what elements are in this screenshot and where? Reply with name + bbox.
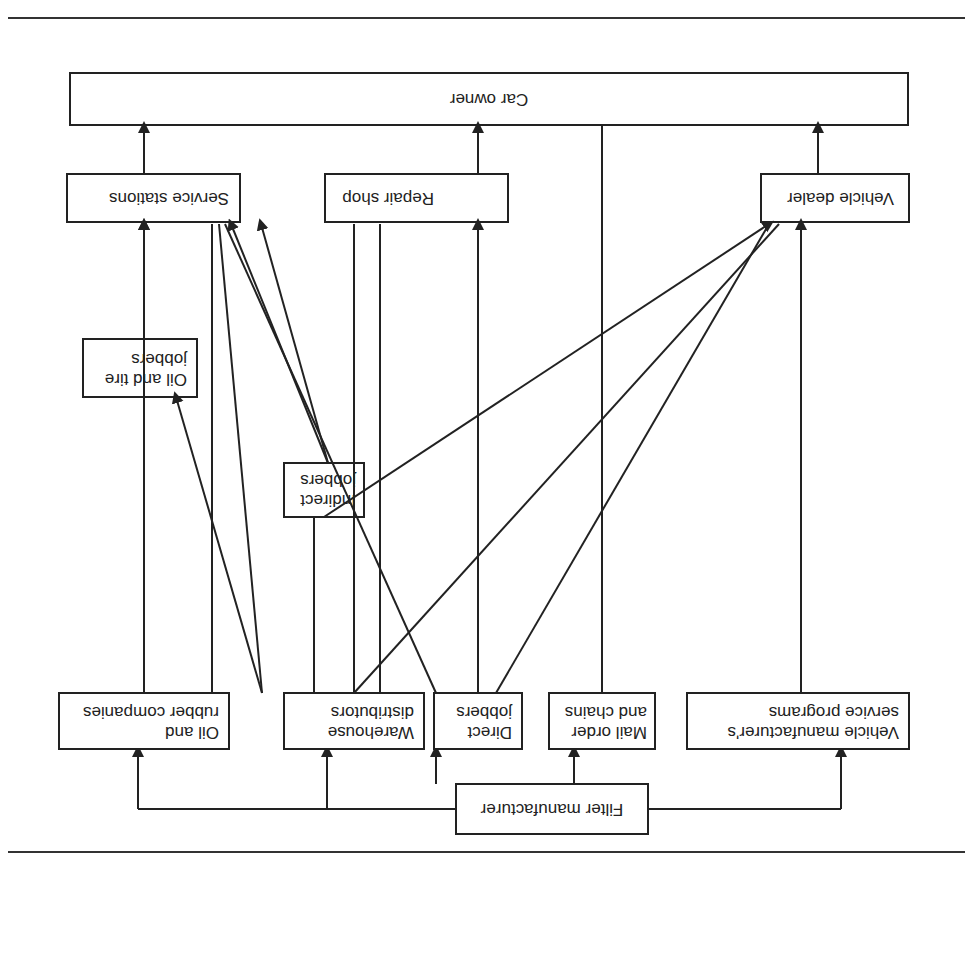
- node-vehicle-mfr-programs: Vehicle manufacturer's service programs: [687, 693, 909, 749]
- svg-text:Vehicle dealer: Vehicle dealer: [787, 189, 894, 208]
- node-direct-jobbers: Direct jobbers: [434, 693, 522, 749]
- svg-text:Mail order: Mail order: [571, 723, 647, 742]
- node-repair-shop: Repair shop: [325, 174, 508, 222]
- svg-text:jobbers: jobbers: [456, 703, 513, 722]
- node-warehouse: Warehouse distributors: [284, 693, 424, 749]
- svg-text:Warehouse: Warehouse: [328, 723, 414, 742]
- svg-text:Oil and: Oil and: [165, 723, 219, 742]
- node-service-stations: Service stations: [67, 174, 240, 222]
- node-oil-rubber: Oil and rubber companies: [59, 693, 229, 749]
- svg-text:Oil and tire: Oil and tire: [105, 370, 187, 389]
- svg-text:Car owner: Car owner: [449, 90, 528, 109]
- node-oil-tire-jobbers: Oil and tire jobbers: [83, 339, 197, 397]
- svg-text:jobbers: jobbers: [131, 350, 188, 369]
- svg-text:and chains: and chains: [565, 703, 647, 722]
- svg-text:rubber companies: rubber companies: [83, 703, 219, 722]
- node-filter-manufacturer: Filter manufacturer: [456, 784, 648, 834]
- node-mail-order: Mail order and chains: [549, 693, 655, 749]
- svg-text:Repair shop: Repair shop: [342, 189, 434, 208]
- svg-text:Direct: Direct: [467, 723, 512, 742]
- svg-text:distributors: distributors: [331, 703, 414, 722]
- node-vehicle-dealer: Vehicle dealer: [761, 174, 909, 222]
- svg-text:Filter manufacturer: Filter manufacturer: [480, 800, 623, 819]
- svg-text:Service stations: Service stations: [109, 189, 229, 208]
- node-indirect-jobbers: Indirect jobbers: [284, 463, 364, 517]
- svg-text:Vehicle manufacturer's: Vehicle manufacturer's: [728, 723, 899, 742]
- node-car-owner: Car owner: [70, 73, 908, 125]
- svg-text:jobbers: jobbers: [300, 471, 357, 490]
- distribution-diagram: Filter manufacturer Oil and rubber compa…: [0, 0, 979, 957]
- svg-text:service programs: service programs: [769, 703, 899, 722]
